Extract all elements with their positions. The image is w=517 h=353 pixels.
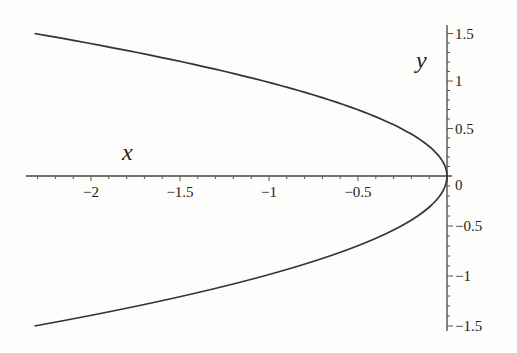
origin-label: 0 [455, 177, 463, 193]
y-tick-label: 0.5 [455, 121, 474, 137]
y-tick-label: −1 [455, 268, 471, 284]
x-ticks: −2−1.5−1−0.5 [38, 176, 447, 200]
y-ticks: 1.510.5−0.5−1−1.5 [447, 26, 482, 335]
x-tick-label: −2 [83, 184, 99, 200]
y-tick-label: 1.5 [455, 26, 474, 42]
parabola-curve [35, 34, 448, 327]
y-axis-title: y [414, 47, 427, 73]
x-tick-label: −1.5 [166, 184, 193, 200]
x-tick-label: −0.5 [344, 184, 371, 200]
y-tick-label: −1.5 [455, 318, 482, 334]
x-tick-label: −1 [261, 184, 277, 200]
axes: −2−1.5−1−0.5 1.510.5−0.5−1−1.5 [26, 25, 482, 334]
x-axis-title: x [121, 139, 133, 165]
chart-canvas: −2−1.5−1−0.5 1.510.5−0.5−1−1.5 x y 0 [0, 0, 517, 353]
y-tick-label: −0.5 [455, 218, 482, 234]
y-tick-label: 1 [455, 73, 463, 89]
